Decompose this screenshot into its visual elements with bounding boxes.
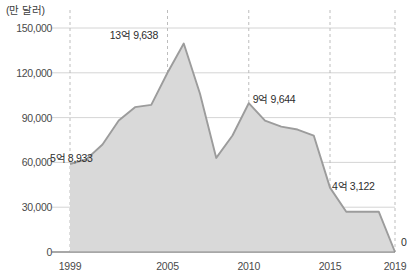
x-axis-tick: 2015 (319, 260, 342, 272)
data-point-label: 5억 8,933 (50, 150, 93, 165)
data-point-label: 0 (401, 236, 407, 248)
y-axis-tick: 0 (4, 246, 52, 258)
x-axis-tick: 1999 (59, 260, 82, 272)
y-axis-tick: 30,000 (4, 201, 52, 213)
x-axis-tick: 2019 (384, 260, 407, 272)
y-axis-tick: 90,000 (4, 112, 52, 124)
data-point-label: 9억 9,644 (253, 91, 296, 106)
y-axis-tick-labels: 030,00060,00090,000120,000150,000 (0, 0, 52, 280)
data-point-label: 4억 3,122 (332, 178, 375, 193)
y-axis-tick: 120,000 (4, 67, 52, 79)
x-axis-tick: 2010 (237, 260, 260, 272)
y-axis-tick: 60,000 (4, 156, 52, 168)
y-axis-tick: 150,000 (4, 22, 52, 34)
area-fill-path (70, 43, 395, 252)
data-point-label: 13억 9,638 (110, 27, 158, 42)
x-axis-tick: 2005 (156, 260, 179, 272)
